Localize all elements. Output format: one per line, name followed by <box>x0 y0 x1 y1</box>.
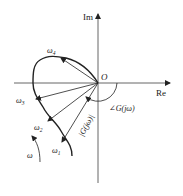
omega2-label: ω2 <box>34 123 43 133</box>
omega-direction-label: ω <box>27 151 33 160</box>
real-axis-label: Re <box>156 88 166 98</box>
imag-axis-label: Im <box>83 12 93 22</box>
omega4-label: ω4 <box>47 46 56 56</box>
phase-angle-arc <box>86 83 117 101</box>
polar-plot-diagram: Im Re O ω4 ω3 ω2 ω1 |G(jω)| ∠G(jω) ω <box>0 0 183 196</box>
phase-label: ∠G(jω) <box>109 104 135 113</box>
magnitude-label: |G(jω)| <box>77 113 96 138</box>
nyquist-curve <box>33 56 98 156</box>
vector-omega3 <box>36 83 98 99</box>
origin-label: O <box>101 72 108 82</box>
vector-omega4 <box>61 58 98 83</box>
omega1-label: ω1 <box>52 146 61 156</box>
omega3-label: ω3 <box>16 96 25 106</box>
omega-direction-arrow <box>32 136 40 162</box>
